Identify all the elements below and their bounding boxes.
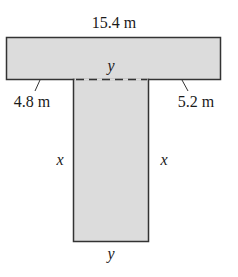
left-overhang-label: 4.8 m — [14, 93, 51, 110]
right-overhang-leader — [182, 80, 188, 91]
stem-bottom-label: y — [105, 245, 115, 263]
right-overhang-label: 5.2 m — [178, 93, 215, 110]
stem-rectangle — [74, 80, 149, 242]
left-overhang-leader — [35, 80, 40, 91]
t-shape-diagram: 15.4 m y 4.8 m 5.2 m x x y — [0, 0, 238, 277]
dashed-join-label: y — [105, 57, 115, 75]
stem-right-side-label: x — [159, 151, 167, 168]
stem-left-side-label: x — [55, 151, 63, 168]
top-width-label: 15.4 m — [92, 14, 137, 31]
